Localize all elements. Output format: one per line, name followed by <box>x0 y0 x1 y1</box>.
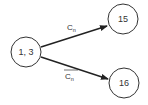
node-1-3: 1, 3 <box>11 37 41 67</box>
node-16: 16 <box>109 68 139 98</box>
node-label: 1, 3 <box>18 47 33 57</box>
node-15: 15 <box>108 4 138 34</box>
edge-label-cn-negated: Cn <box>65 72 74 82</box>
state-diagram: Cn Cn 1, 3 15 16 <box>0 0 148 105</box>
edge-cn-bar: Cn <box>41 57 108 82</box>
edge-cn: Cn <box>41 23 107 47</box>
node-label: 15 <box>118 14 128 24</box>
edge-arrow-to-16 <box>41 57 108 79</box>
edge-label-cn: Cn <box>67 23 76 33</box>
node-label: 16 <box>119 78 129 88</box>
